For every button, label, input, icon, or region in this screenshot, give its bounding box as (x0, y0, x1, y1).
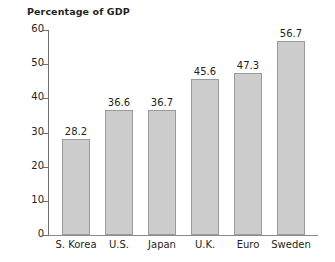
x-axis-category-label: Sweden (271, 239, 311, 250)
bar-value-label: 36.7 (151, 97, 173, 108)
y-axis-tick-label: 20 (31, 160, 44, 171)
bar-group[interactable]: 47.3Euro (234, 30, 262, 235)
x-axis-category-label: Euro (237, 239, 260, 250)
bar-value-label: 45.6 (194, 66, 216, 77)
x-axis-category-label: S. Korea (55, 239, 96, 250)
y-axis-tick-label: 60 (31, 23, 44, 34)
y-axis-tick-label: 0 (38, 228, 44, 239)
bar[interactable] (105, 110, 133, 235)
bar[interactable] (277, 41, 305, 235)
y-axis-tick-label: 30 (31, 126, 44, 137)
x-axis-category-label: Japan (148, 239, 176, 250)
bar-value-label: 47.3 (237, 60, 259, 71)
x-axis-category-label: U.K. (195, 239, 215, 250)
bar[interactable] (148, 110, 176, 235)
bar[interactable] (62, 139, 90, 235)
bar-group[interactable]: 56.7Sweden (277, 30, 305, 235)
bar[interactable] (191, 79, 219, 235)
bar-group[interactable]: 45.6U.K. (191, 30, 219, 235)
bar[interactable] (234, 73, 262, 235)
bar-value-label: 56.7 (280, 28, 302, 39)
y-axis-tick-label: 40 (31, 91, 44, 102)
chart-title: Percentage of GDP (27, 6, 130, 17)
plot-area: 0102030405060 28.2S. Korea36.6U.S.36.7Ja… (48, 30, 318, 235)
bar-group[interactable]: 36.7Japan (148, 30, 176, 235)
x-axis-line (48, 235, 318, 236)
x-axis-category-label: U.S. (109, 239, 129, 250)
bar-value-label: 28.2 (65, 126, 87, 137)
y-axis-tick-label: 10 (31, 194, 44, 205)
bar-chart-figure: Percentage of GDP 0102030405060 28.2S. K… (0, 0, 335, 262)
y-axis-tick-label: 50 (31, 57, 44, 68)
y-axis-line (48, 30, 49, 235)
bar-group[interactable]: 36.6U.S. (105, 30, 133, 235)
bar-value-label: 36.6 (108, 97, 130, 108)
bar-group[interactable]: 28.2S. Korea (62, 30, 90, 235)
